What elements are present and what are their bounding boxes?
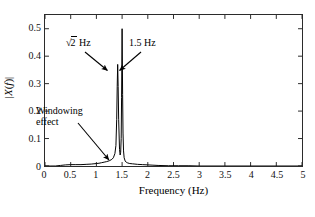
- x-tick-label: 2: [145, 170, 150, 180]
- x-tick-label: 3: [197, 170, 202, 180]
- x-tick-label: 5: [301, 170, 306, 180]
- annotation-windowing-line2: effect: [36, 116, 83, 127]
- spectrum-line: [45, 29, 302, 166]
- x-axis-tick-labels: 00.511.522.533.544.55: [44, 170, 303, 183]
- x-tick-label: 1: [93, 170, 98, 180]
- annotation-sqrt2-hz: √2 Hz: [66, 38, 91, 49]
- x-tick-label: 0.5: [64, 170, 77, 180]
- y-tick-label: 0.5: [29, 23, 42, 33]
- annotation-windowing-effect: Windowing effect: [36, 105, 83, 127]
- y-axis-title: |X(f)|: [3, 56, 14, 120]
- annotation-1point5-hz: 1.5 Hz: [129, 38, 156, 49]
- radicand-value: 2: [71, 36, 77, 48]
- frequency-spectrum-figure: 00.10.20.30.40.5 00.511.522.533.544.55 F…: [0, 0, 315, 217]
- annotation-sqrt2-unit: Hz: [79, 37, 91, 48]
- x-axis-title: Frequency (Hz): [44, 185, 303, 196]
- y-tick-label: 0: [36, 162, 41, 172]
- x-tick-label: 4.5: [271, 170, 284, 180]
- y-axis-tick-labels: 00.10.20.30.40.5: [14, 14, 41, 167]
- y-tick-label: 0.1: [29, 134, 42, 144]
- y-axis-title-text: |X(f)|: [2, 77, 14, 99]
- x-tick-label: 3.5: [219, 170, 232, 180]
- annotation-windowing-line1: Windowing: [36, 105, 83, 116]
- x-tick-label: 2.5: [167, 170, 180, 180]
- page-caption-sliver: [40, 209, 280, 215]
- x-tick-label: 0: [42, 170, 47, 180]
- y-tick-label: 0.3: [29, 79, 42, 89]
- y-tick-label: 0.4: [29, 51, 42, 61]
- x-tick-label: 4: [249, 170, 254, 180]
- x-tick-label: 1.5: [115, 170, 128, 180]
